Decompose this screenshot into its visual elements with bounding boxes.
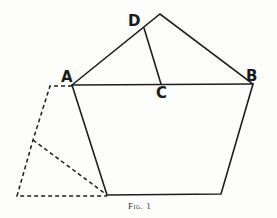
label-c: C <box>156 86 167 101</box>
pentagon-outline <box>72 14 253 195</box>
dashed-diagonal <box>33 140 107 195</box>
figure: A B C D Fig. 1 <box>0 0 277 218</box>
label-a: A <box>61 70 73 85</box>
pentagon-diagram <box>0 0 277 218</box>
figure-caption: Fig. 1 <box>128 201 151 211</box>
dashed-construction <box>17 86 107 196</box>
label-b: B <box>246 69 257 84</box>
line-dc <box>144 28 161 84</box>
label-d: D <box>128 14 140 29</box>
